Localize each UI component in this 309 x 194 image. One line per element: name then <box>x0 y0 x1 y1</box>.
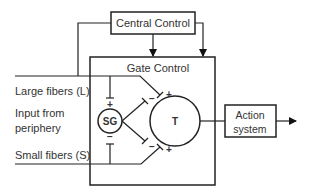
gate-control-label: Gate Control <box>127 62 189 74</box>
small-fibers-label: Small fibers (S) <box>15 149 90 161</box>
large-fibers-label: Large fibers (L) <box>15 85 90 97</box>
gate-control-diagram: Central Control Gate Control SG T + − − … <box>0 0 309 194</box>
central-control-label: Central Control <box>116 17 190 29</box>
central-to-gate-arrow-2 <box>195 23 203 56</box>
sg-plus-sign: + <box>107 99 113 110</box>
t-label: T <box>172 116 178 127</box>
upper-plus-sign: + <box>166 89 172 100</box>
sg-node: SG <box>98 109 122 133</box>
action-system-label-2: system <box>233 123 267 135</box>
input-periphery-label-2: periphery <box>15 122 61 134</box>
sg-to-t-upper-line <box>122 101 145 121</box>
central-feedback-line <box>78 23 111 76</box>
lower-plus-sign: + <box>166 144 172 155</box>
sg-to-t-lower-line <box>122 121 145 141</box>
t-node: T <box>150 96 200 146</box>
sg-label: SG <box>103 116 118 127</box>
action-system-label-1: Action <box>235 109 264 121</box>
lower-minus-sign: − <box>149 141 155 152</box>
upper-minus-sign: − <box>149 93 155 104</box>
input-periphery-label-1: Input from <box>15 107 65 119</box>
sg-minus-sign: − <box>107 131 113 142</box>
central-control-box: Central Control <box>111 12 195 34</box>
action-system-box: Action system <box>225 105 276 137</box>
